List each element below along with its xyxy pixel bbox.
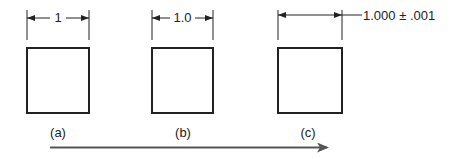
- caption: (a): [50, 125, 66, 140]
- dimension-value: 1.0: [173, 10, 191, 25]
- caption: (c): [300, 125, 315, 140]
- caption: (b): [175, 125, 191, 140]
- square: [27, 48, 89, 113]
- dimension-value: 1: [54, 10, 61, 25]
- figure-b: 1.0 (b): [152, 10, 213, 140]
- square: [152, 48, 213, 113]
- square: [278, 48, 342, 113]
- figure-a: 1 (a): [27, 10, 89, 140]
- figure-c: 1.000 ± .001 (c): [278, 8, 435, 140]
- dimension-value: 1.000 ± .001: [363, 8, 435, 23]
- dimensioning-diagram: 1 (a) 1.0 (b) 1.000 ± .001 (c): [0, 0, 460, 159]
